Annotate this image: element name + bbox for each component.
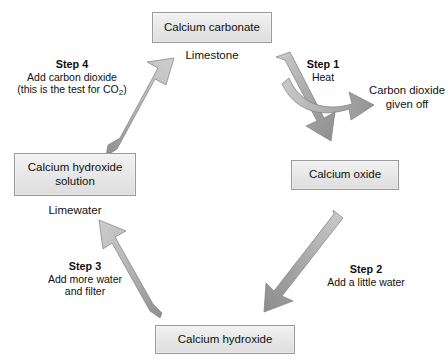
step-3-label: Step 3 Add more water and filter xyxy=(37,260,133,298)
step-4-body-line-2: (this is the test for CO2) xyxy=(5,83,139,98)
limestone-cycle-diagram: Calcium carbonate Limestone Calcium oxid… xyxy=(0,0,448,362)
node-calcium-hydroxide-solution-sublabel: Limewater xyxy=(14,204,136,217)
node-calcium-carbonate[interactable]: Calcium carbonate xyxy=(152,12,272,43)
step-4-subscript: 2 xyxy=(119,88,123,97)
step-2-label: Step 2 Add a little water xyxy=(318,263,414,288)
annotation-line-1: Carbon dioxide xyxy=(369,84,445,96)
step-1-body: Heat xyxy=(291,71,355,84)
annotation-line-2: given off xyxy=(386,98,429,110)
step-1-label: Step 1 Heat xyxy=(291,58,355,83)
node-calcium-hydroxide[interactable]: Calcium hydroxide xyxy=(155,325,295,354)
step-3-body-line-1: Add more water xyxy=(37,273,133,286)
node-calcium-hydroxide-solution[interactable]: Calcium hydroxide solution xyxy=(14,153,136,196)
node-calcium-oxide[interactable]: Calcium oxide xyxy=(291,160,399,190)
arrow-step-2 xyxy=(264,210,343,312)
step-4-title: Step 4 xyxy=(5,58,139,71)
step-4-body-line-2-text: (this is the test for CO xyxy=(17,83,119,95)
step-3-title: Step 3 xyxy=(37,260,133,273)
annotation-carbon-dioxide-given-off: Carbon dioxide given off xyxy=(368,84,446,111)
step-2-title: Step 2 xyxy=(318,263,414,276)
step-3-body-line-2: and filter xyxy=(37,285,133,298)
node-calcium-hydroxide-solution-label-line1: Calcium hydroxide xyxy=(28,161,123,175)
step-4-body-line-1: Add carbon dioxide xyxy=(5,71,139,84)
node-calcium-carbonate-label: Calcium carbonate xyxy=(164,21,260,35)
node-calcium-carbonate-sublabel: Limestone xyxy=(152,49,272,62)
step-2-body: Add a little water xyxy=(318,276,414,289)
node-calcium-oxide-label: Calcium oxide xyxy=(309,168,381,182)
step-4-body-line-2-end: ) xyxy=(123,83,127,95)
node-calcium-hydroxide-label: Calcium hydroxide xyxy=(178,333,273,347)
node-calcium-hydroxide-solution-label-line2: solution xyxy=(55,175,95,189)
step-1-title: Step 1 xyxy=(291,58,355,71)
step-4-label: Step 4 Add carbon dioxide (this is the t… xyxy=(5,58,139,98)
